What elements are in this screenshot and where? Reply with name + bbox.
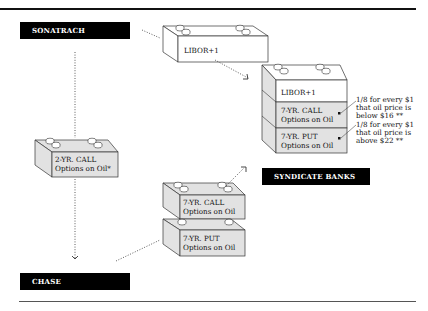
stack-put-line2: Options on Oil <box>281 141 333 150</box>
mid-put-line1: 7-YR. PUT <box>183 234 220 243</box>
call-bullet <box>338 112 341 115</box>
put-note-line3: above $22 ** <box>356 137 403 145</box>
stack-call-line2: Options on Oil <box>281 115 333 124</box>
call-note-line3: below $16 ** <box>356 112 403 120</box>
stack-put-line1: 7-YR. PUT <box>281 132 318 141</box>
mid-call-line2: Options on Oil <box>183 207 235 216</box>
stack-call-line1: 7-YR. CALL <box>281 106 322 115</box>
two-yr-call-line1: 2-YR. CALL <box>55 155 96 164</box>
libor-block-text: LIBOR+1 <box>184 46 219 55</box>
arrow-libor-to-syndicate <box>215 60 248 78</box>
libor-block <box>163 25 268 62</box>
mid-call-line1: 7-YR. CALL <box>183 198 224 207</box>
two-yr-call-line2: Options on Oil* <box>55 164 111 173</box>
arrow-chase-to-stack <box>116 240 160 261</box>
arrow-sonatrach-to-libor <box>142 30 160 38</box>
mid-put-line2: Options on Oil <box>183 243 235 252</box>
put-bullet <box>338 137 341 140</box>
stack-libor-text: LIBOR+1 <box>281 88 316 97</box>
